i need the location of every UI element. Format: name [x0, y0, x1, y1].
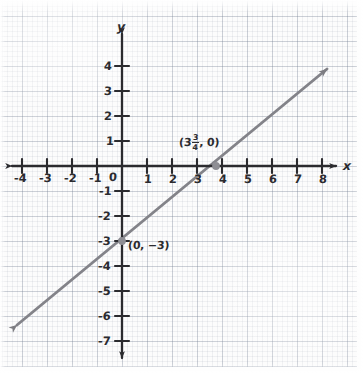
x-tick-label-5: 5 [244, 174, 252, 186]
x-tick-label-7: 7 [294, 174, 302, 186]
x-intercept-whole-number: 3 [184, 136, 192, 149]
y-tick-label-2: 2 [104, 111, 112, 123]
x-tick-label-8: 8 [319, 174, 327, 186]
y-tick-label-1: 1 [106, 136, 114, 148]
x-tick-label--1: -1 [89, 173, 102, 185]
fraction-numerator: 3 [193, 134, 199, 142]
line-segment [17, 69, 327, 325]
fraction-denominator: 4 [192, 144, 198, 152]
y-tick-label--1: -1 [99, 186, 112, 198]
graphed-line [17, 69, 327, 325]
x-tick-label-1: 1 [144, 174, 152, 186]
x-tick-label-2: 2 [169, 174, 177, 186]
x-tick-label-3: 3 [194, 174, 202, 186]
y-tick-label-4: 4 [104, 61, 112, 73]
y-axis-label: y [117, 21, 126, 34]
x-tick-label--4: -4 [14, 173, 27, 185]
graph-figure: x y 0 -4 -3 -2 -1 1 2 3 4 5 6 7 8 4 3 2 … [0, 0, 363, 373]
y-tick-label--2: -2 [98, 211, 111, 223]
x-axis-label: x [343, 160, 352, 173]
coordinate-plane [0, 0, 363, 373]
y-intercept-annotation: (0, −3) [128, 240, 170, 251]
x-intercept-close-paren: , 0) [199, 136, 220, 149]
mixed-fraction: 34 [191, 134, 199, 152]
x-tick-label--2: -2 [64, 173, 77, 185]
x-tick-label--3: -3 [39, 173, 52, 185]
y-tick-label--3: -3 [98, 236, 111, 248]
x-tick-label-4: 4 [219, 174, 227, 186]
y-tick-label-3: 3 [104, 86, 112, 98]
point-marker-y-intercept [118, 237, 126, 245]
point-marker-x-intercept [212, 162, 220, 170]
y-tick-label--7: -7 [98, 336, 111, 348]
y-tick-label--4: -4 [98, 261, 111, 273]
y-tick-label--5: -5 [98, 286, 111, 298]
origin-label: 0 [109, 172, 117, 184]
x-intercept-annotation: (334, 0) [179, 134, 220, 152]
x-tick-label-6: 6 [269, 174, 277, 186]
y-tick-label--6: -6 [98, 311, 111, 323]
